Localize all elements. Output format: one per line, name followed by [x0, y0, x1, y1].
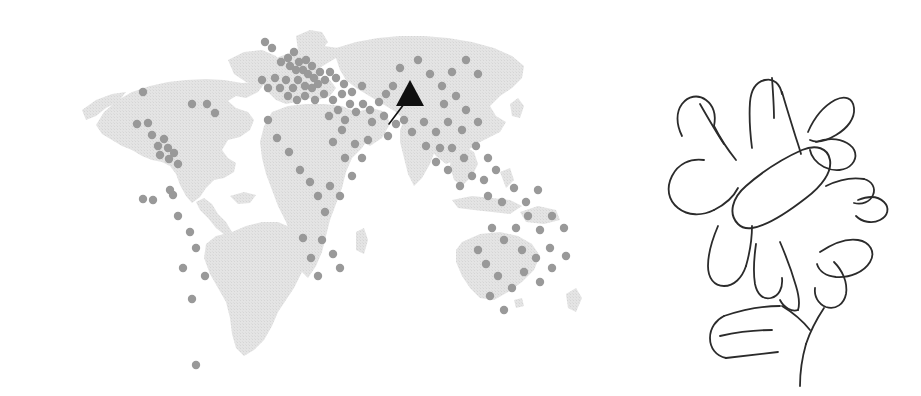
map-point — [325, 112, 333, 120]
map-point — [440, 100, 448, 108]
map-point — [284, 92, 292, 100]
landmass-japan — [510, 98, 524, 118]
map-point — [460, 154, 468, 162]
landmass-southeast-asia — [450, 146, 478, 186]
map-point — [472, 142, 480, 150]
map-point — [348, 88, 356, 96]
map-point — [368, 118, 376, 126]
world-map-panel — [0, 0, 620, 396]
map-point — [314, 272, 322, 280]
map-point — [306, 178, 314, 186]
map-point — [294, 76, 302, 84]
landmass-new-zealand — [566, 288, 582, 312]
map-point — [510, 184, 518, 192]
map-point — [366, 106, 374, 114]
map-point — [348, 172, 356, 180]
map-point — [474, 118, 482, 126]
map-point — [341, 154, 349, 162]
map-point — [340, 80, 348, 88]
map-point — [389, 82, 397, 90]
map-point — [498, 198, 506, 206]
map-point — [316, 68, 324, 76]
landmass-australia — [456, 232, 540, 300]
map-point — [174, 160, 182, 168]
map-point — [458, 126, 466, 134]
map-point — [456, 182, 464, 190]
map-point — [486, 292, 494, 300]
map-point — [299, 234, 307, 242]
map-point — [338, 126, 346, 134]
map-point — [436, 144, 444, 152]
glyph-letter-b-lower-right — [815, 240, 873, 308]
map-point — [438, 82, 446, 90]
map-point — [346, 100, 354, 108]
map-point — [432, 128, 440, 136]
map-point — [375, 98, 383, 106]
handwriting-svg — [620, 0, 921, 396]
map-point — [420, 118, 428, 126]
map-point — [320, 90, 328, 98]
glyph-letter-b-upper-right — [808, 98, 855, 171]
map-point — [301, 92, 309, 100]
map-point — [329, 138, 337, 146]
map-point — [382, 90, 390, 98]
map-point — [520, 268, 528, 276]
map-point — [276, 84, 284, 92]
map-point — [271, 74, 279, 82]
map-point — [307, 254, 315, 262]
map-point — [500, 236, 508, 244]
map-point — [392, 120, 400, 128]
map-point — [444, 166, 452, 174]
map-point — [174, 212, 182, 220]
glyph-letter-c-left — [669, 160, 738, 215]
map-point — [326, 182, 334, 190]
map-point — [414, 56, 422, 64]
map-point — [144, 119, 152, 127]
map-point — [148, 131, 156, 139]
map-point — [534, 186, 542, 194]
map-point — [524, 212, 532, 220]
map-point — [284, 54, 292, 62]
map-point — [336, 264, 344, 272]
map-point — [188, 295, 196, 303]
map-point — [488, 224, 496, 232]
map-point — [408, 128, 416, 136]
map-point — [452, 92, 460, 100]
glyph-letter-n-upper-left — [678, 97, 737, 160]
landmass-central-america — [196, 198, 232, 236]
map-point — [268, 44, 276, 52]
landmass-caribbean — [230, 192, 256, 204]
map-point — [318, 236, 326, 244]
glyph-letter-m-top — [750, 78, 801, 154]
map-point — [532, 254, 540, 262]
map-point — [188, 100, 196, 108]
map-point — [211, 109, 219, 117]
map-point — [133, 120, 141, 128]
map-point — [352, 108, 360, 116]
map-point — [474, 70, 482, 78]
landmass-north-america — [96, 79, 268, 203]
map-point — [432, 158, 440, 166]
map-point — [500, 306, 508, 314]
map-point — [160, 135, 168, 143]
map-point — [359, 100, 367, 108]
map-point — [422, 142, 430, 150]
map-point — [480, 176, 488, 184]
map-point — [518, 246, 526, 254]
map-point — [203, 100, 211, 108]
map-point — [341, 116, 349, 124]
landmass-madagascar — [356, 228, 368, 254]
map-point — [494, 272, 502, 280]
glyph-letter-n-bottom — [754, 242, 799, 311]
map-point — [139, 88, 147, 96]
map-point — [302, 56, 310, 64]
glyph-letter-u-lower-left — [708, 226, 752, 286]
map-point — [358, 82, 366, 90]
landmass-south-america — [204, 222, 306, 356]
map-point — [139, 195, 147, 203]
glyph-letter-e-bottom-left — [710, 306, 780, 358]
glyph-letter-m-right — [826, 178, 887, 222]
map-point — [332, 74, 340, 82]
map-point — [338, 90, 346, 98]
map-point — [336, 192, 344, 200]
